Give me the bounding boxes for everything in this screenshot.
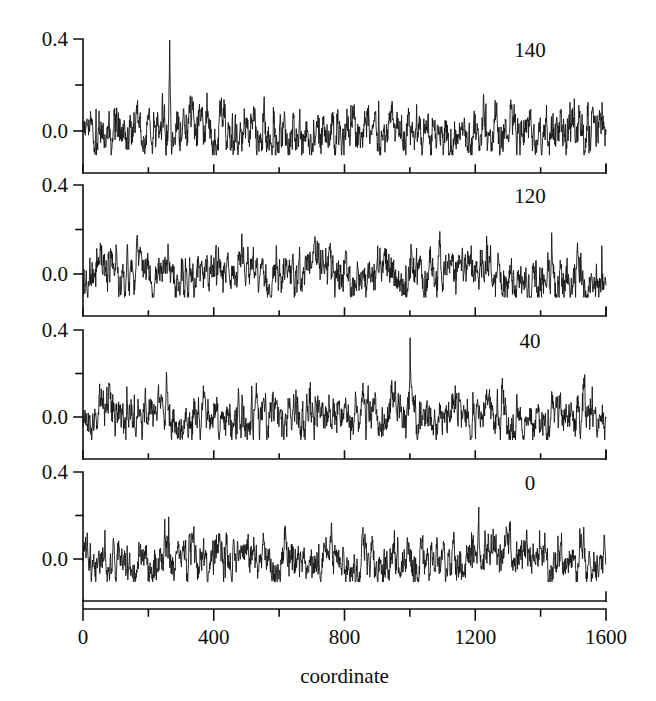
panel-baseline — [83, 451, 606, 459]
panel-120: 0.40.0120 — [42, 173, 606, 316]
y-tick-label-0.0: 0.0 — [42, 262, 68, 286]
x-tick-label-1200: 1200 — [454, 625, 496, 649]
panel-label-140: 140 — [514, 38, 546, 62]
panel-140: 0.40.0140 — [42, 27, 606, 173]
y-tick-label-0.4: 0.4 — [42, 173, 69, 197]
panel-40: 0.40.040 — [42, 318, 606, 459]
y-tick-label-0.0: 0.0 — [42, 405, 68, 429]
y-tick-label-0.0: 0.0 — [42, 547, 68, 571]
panel-0: 0.40.00 — [42, 460, 606, 601]
y-axis-spine — [74, 472, 83, 601]
x-axis-title: coordinate — [300, 664, 389, 688]
y-tick-label-0.4: 0.4 — [42, 460, 69, 484]
y-axis-spine — [74, 39, 83, 173]
x-tick-label-400: 400 — [198, 625, 230, 649]
panel-label-0: 0 — [525, 471, 536, 495]
multi-panel-noise-figure: 0.40.01400.40.01200.40.0400.40.000400800… — [0, 0, 656, 701]
y-axis-spine — [74, 185, 83, 316]
panel-label-120: 120 — [514, 184, 546, 208]
trace-line-40 — [83, 338, 606, 440]
panel-baseline — [83, 165, 606, 173]
x-tick-label-800: 800 — [329, 625, 361, 649]
y-tick-label-0.4: 0.4 — [42, 27, 69, 51]
trace-line-120 — [83, 231, 606, 297]
x-axis-line — [83, 600, 606, 620]
y-tick-label-0.0: 0.0 — [42, 119, 68, 143]
x-tick-label-0: 0 — [78, 625, 89, 649]
panel-baseline — [83, 308, 606, 316]
chart-canvas: 0.40.01400.40.01200.40.0400.40.000400800… — [0, 0, 656, 701]
trace-line-0 — [83, 507, 606, 582]
y-tick-label-0.4: 0.4 — [42, 318, 69, 342]
x-axis: 040080012001600coordinate — [78, 600, 627, 688]
panel-label-40: 40 — [520, 329, 541, 353]
y-axis-spine — [74, 330, 83, 459]
x-tick-label-1600: 1600 — [585, 625, 627, 649]
